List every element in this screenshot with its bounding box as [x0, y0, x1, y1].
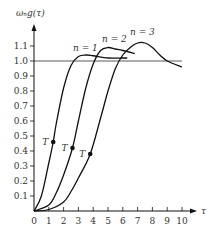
legend-n3: n = 3 [130, 27, 155, 37]
y-tick-label: 0.7 [14, 101, 29, 111]
x-tick-label: 3 [76, 216, 82, 226]
y-tick-label: 0.1 [14, 191, 28, 201]
t-marker-label: T [42, 137, 49, 147]
y-tick-label: 0.2 [14, 176, 28, 186]
y-tick-label: 1.1 [14, 41, 28, 51]
x-tick-label: 10 [176, 216, 188, 226]
t-marker-label: T [79, 149, 86, 159]
y-tick-label: 0.3 [14, 161, 29, 171]
x-axis-label: τ [201, 206, 207, 216]
x-tick-label: 6 [120, 216, 126, 226]
y-axis-arrow-icon [32, 24, 37, 31]
x-tick-label: 5 [105, 216, 111, 226]
legend-n1: n = 1 [73, 43, 98, 53]
y-tick-label: 0.5 [14, 131, 29, 141]
y-tick-label: 1.0 [14, 56, 29, 66]
t-marker-point [70, 146, 75, 151]
x-tick-label: 9 [164, 216, 170, 226]
x-tick-label: 7 [135, 216, 141, 226]
y-tick-label: 0.8 [14, 86, 29, 96]
curve-n-2 [34, 47, 135, 211]
y-tick-label: 0.9 [14, 71, 29, 81]
x-tick-label: 0 [31, 216, 37, 226]
t-marker-point [51, 140, 56, 145]
t-marker-point [88, 152, 93, 157]
y-tick-label: 0.6 [14, 116, 29, 126]
legend-n2: n = 2 [102, 34, 127, 44]
x-tick-label: 1 [46, 216, 52, 226]
t-marker-label: T [61, 143, 68, 153]
y-tick-label: 0.4 [14, 146, 29, 156]
x-axis-arrow-icon [190, 209, 197, 214]
step-response-chart: τωₙg(τ)0.10.20.30.40.50.60.70.80.91.01.1… [0, 0, 216, 236]
curve-n-1 [34, 55, 127, 211]
y-axis-label: ωₙg(τ) [16, 8, 45, 18]
x-tick-label: 4 [90, 216, 96, 226]
x-tick-label: 8 [150, 216, 156, 226]
x-tick-label: 2 [61, 216, 67, 226]
